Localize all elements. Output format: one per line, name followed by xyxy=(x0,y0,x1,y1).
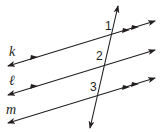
line-label-m: m xyxy=(6,102,16,117)
line-l xyxy=(8,50,155,95)
line-label-k: k xyxy=(9,44,16,59)
angle-label-2: 2 xyxy=(96,49,103,63)
line-m xyxy=(8,78,155,123)
line-label-l: ℓ xyxy=(9,73,15,88)
transversal-line xyxy=(90,6,118,128)
line-k xyxy=(8,21,155,66)
angle-label-1: 1 xyxy=(105,19,112,33)
angle-label-3: 3 xyxy=(90,80,97,94)
diagram-canvas: 1 2 3 k ℓ m xyxy=(0,0,161,132)
